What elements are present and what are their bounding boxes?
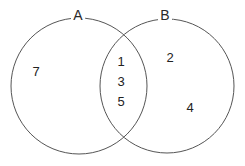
intersection-element: 5 (117, 94, 124, 109)
venn-diagram: A B 7 1 3 5 2 4 (0, 0, 245, 166)
set-a-label: A (73, 7, 83, 23)
intersection-element: 3 (117, 74, 124, 89)
set-a-circle (11, 18, 147, 154)
set-b-only-element: 4 (186, 100, 193, 115)
set-b-label: B (160, 7, 169, 23)
set-b-only-element: 2 (166, 50, 173, 65)
intersection-element: 1 (117, 54, 124, 69)
set-a-only-element: 7 (32, 64, 39, 79)
